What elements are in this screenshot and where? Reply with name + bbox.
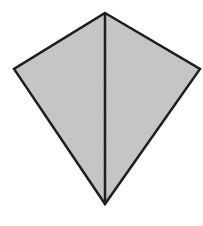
kite-diagram [0,0,203,226]
kite-figure [0,0,203,226]
